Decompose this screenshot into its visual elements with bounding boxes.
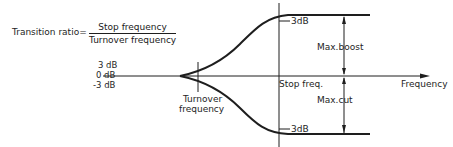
arrow-down-icon — [342, 68, 346, 75]
transition-ratio-label: Transition ratio= — [12, 27, 87, 37]
arrow-up-icon — [342, 16, 346, 24]
turnover-label: Turnover frequency — [181, 94, 224, 114]
stop-freq-label: Stop freq. — [279, 79, 323, 89]
top-3db-label: 3dB — [291, 16, 309, 26]
arrow-up-icon — [342, 77, 346, 84]
max-boost-label: Max.boost — [317, 42, 363, 52]
max-cut-label: Max.cut — [317, 95, 353, 105]
fraction-denominator: Turnover frequency — [89, 34, 176, 46]
bottom-3db-label: 3dB — [291, 124, 309, 134]
axis-arrow-icon — [420, 74, 430, 79]
frequency-axis-label: Frequency — [401, 79, 448, 89]
arrow-down-icon — [342, 125, 346, 133]
y-label-minus3: -3 dB — [93, 80, 115, 90]
y-label-plus3: 3 dB — [98, 60, 117, 70]
fraction-numerator: Stop frequency — [89, 22, 176, 34]
shelving-response-diagram — [0, 0, 453, 147]
y-label-zero: 0 dB — [96, 70, 115, 80]
transition-ratio-fraction: Stop frequency Turnover frequency — [89, 22, 176, 46]
